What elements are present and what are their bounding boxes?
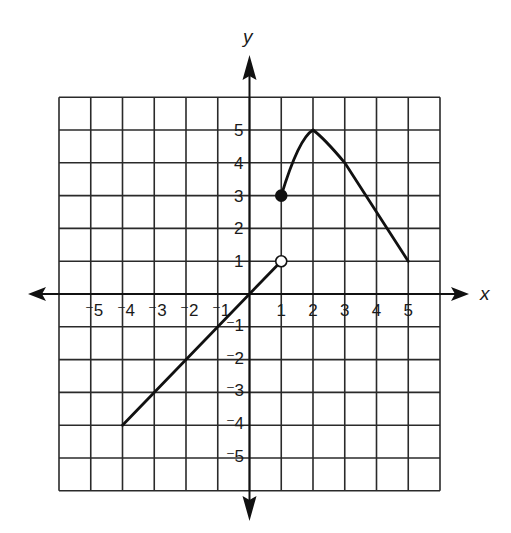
open-circle-icon xyxy=(276,256,287,267)
y-tick-label: ⁻4 xyxy=(226,414,244,433)
x-tick-label: 2 xyxy=(308,301,317,320)
y-tick-label: ⁻5 xyxy=(226,447,244,466)
x-tick-label: ⁻3 xyxy=(148,301,166,320)
y-tick-label: 1 xyxy=(234,252,243,271)
y-tick-label: ⁻3 xyxy=(226,381,244,400)
line-segment-piece xyxy=(123,261,282,425)
axes xyxy=(28,55,469,521)
closed-dot-icon xyxy=(276,190,287,201)
y-tick-label: 2 xyxy=(234,219,243,238)
x-tick-label: 5 xyxy=(404,301,413,320)
x-tick-label: 1 xyxy=(277,301,286,320)
y-tick-label: 4 xyxy=(234,154,243,173)
function-graph xyxy=(123,130,409,425)
y-tick-label: 5 xyxy=(234,121,243,140)
x-tick-label: ⁻5 xyxy=(85,301,103,320)
y-axis-label: y xyxy=(241,26,254,47)
y-tick-label: ⁻2 xyxy=(226,349,244,368)
x-axis-label: x xyxy=(479,283,491,304)
y-tick-label: 3 xyxy=(234,187,243,206)
x-tick-label: 4 xyxy=(372,301,381,320)
x-tick-label: ⁻2 xyxy=(180,301,198,320)
x-tick-label: ⁻4 xyxy=(117,301,135,320)
x-tick-label: 3 xyxy=(340,301,349,320)
coordinate-plane: ⁻5⁻4⁻3⁻2⁻112345⁻5⁻4⁻3⁻2⁻112345 x y xyxy=(0,0,511,533)
y-tick-label: ⁻1 xyxy=(226,316,244,335)
